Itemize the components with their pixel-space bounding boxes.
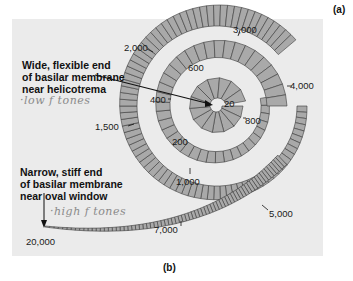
freq-label-200: 200 xyxy=(172,136,188,147)
narrow-end-line-2: of basilar membrane xyxy=(20,178,123,190)
narrow-end-annotation: Narrow, stiff end of basilar membrane ne… xyxy=(20,166,123,202)
freq-label-2000: 2,000 xyxy=(124,42,148,53)
wide-end-line-1: Wide, flexible end xyxy=(22,59,125,71)
narrow-end-line-3: near oval window xyxy=(20,190,123,202)
narrow-end-line-1: Narrow, stiff end xyxy=(20,166,123,178)
high-tones-handwritten-note: ·high f tones xyxy=(50,205,126,218)
freq-label-400: 400 xyxy=(150,94,166,105)
freq-label-4000: 4,000 xyxy=(290,80,314,91)
freq-label-1500: 1,500 xyxy=(95,121,119,132)
freq-label-600: 600 xyxy=(188,62,204,73)
wide-end-annotation: Wide, flexible end of basilar membrane n… xyxy=(22,59,125,95)
freq-label-7000: 7,000 xyxy=(154,224,178,235)
freq-label-3000: 3,000 xyxy=(233,24,257,35)
wide-end-line-2: of basilar membrane xyxy=(22,71,125,83)
freq-label-20000: 20,000 xyxy=(26,236,55,247)
low-tones-handwritten-note: ·low f tones xyxy=(20,94,90,107)
panel-label-a: (a) xyxy=(333,4,345,15)
panel-label-b: (b) xyxy=(163,262,176,273)
freq-label-1000: 1,000 xyxy=(176,176,200,187)
freq-label-800: 800 xyxy=(245,115,261,126)
freq-label-20: 20 xyxy=(224,98,235,109)
freq-label-5000: 5,000 xyxy=(269,208,293,219)
